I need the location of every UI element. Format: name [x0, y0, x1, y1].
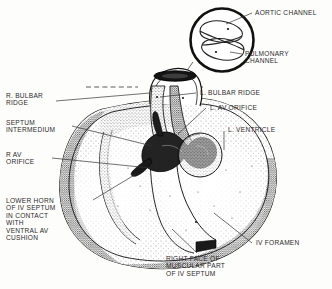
- truncus-lumen-inner: [162, 73, 188, 78]
- r-bulbar-ridge-dot: [156, 96, 158, 98]
- label-aortic-channel: AORTIC CHANNEL: [255, 9, 317, 16]
- label-l-bulbar-ridge: L. BULBAR RIDGE: [200, 89, 260, 96]
- label-pulmonary-channel: PULMONARY CHANNEL: [245, 50, 289, 65]
- label-r-av-orifice: R AV ORIFICE: [6, 151, 35, 166]
- label-iv-foramen: IV FORAMEN: [256, 239, 300, 246]
- label-lower-horn-of-iv-septum: LOWER HORN OF IV SEPTUM IN CONTACT WITH …: [6, 197, 56, 241]
- leader-r-bulbar-ridge: [56, 93, 150, 101]
- pulmonary-channel-dot: [215, 51, 217, 53]
- aortic-channel-dot: [227, 28, 229, 30]
- label-l-ventricle: L. VENTRICLE: [228, 126, 275, 133]
- anatomy-figure: R. BULBAR RIDGE SEPTUM INTERMEDIUM R AV …: [0, 0, 332, 289]
- label-right-face-of-muscular-part-of-iv-septum: RIGHT FACE OF MUSCULAR PART OF IV SEPTUM: [166, 255, 225, 277]
- label-septum-intermedium: SEPTUM INTERMEDIUM: [6, 119, 55, 134]
- left-av-orifice: [178, 133, 222, 177]
- label-r-bulbar-ridge: R. BULBAR RIDGE: [6, 92, 43, 107]
- iv-septum-dot: [195, 221, 197, 223]
- label-l-av-orifice: L. AV ORIFICE: [210, 104, 257, 111]
- l-bulbar-ridge-dot: [182, 97, 184, 99]
- heart-body: [55, 69, 285, 276]
